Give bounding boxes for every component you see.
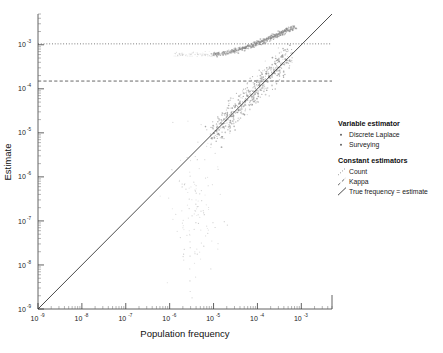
data-point bbox=[260, 71, 261, 72]
data-point bbox=[276, 71, 277, 72]
legend-item-label: Kappa bbox=[349, 178, 369, 186]
data-point bbox=[239, 102, 241, 104]
legend-item[interactable]: True frequency = estimate bbox=[338, 188, 428, 196]
data-point bbox=[269, 66, 271, 68]
data-point bbox=[189, 255, 190, 256]
data-point bbox=[288, 30, 290, 32]
data-point bbox=[196, 185, 197, 186]
data-point bbox=[177, 231, 178, 232]
data-point bbox=[252, 91, 253, 92]
data-point bbox=[275, 67, 277, 69]
data-point bbox=[256, 92, 257, 93]
data-point bbox=[249, 102, 250, 103]
data-point bbox=[183, 259, 184, 260]
data-point bbox=[288, 67, 289, 68]
data-point bbox=[228, 100, 230, 102]
data-point bbox=[200, 211, 201, 212]
data-point bbox=[210, 127, 211, 128]
data-point bbox=[207, 54, 208, 55]
data-point bbox=[217, 121, 219, 123]
data-point bbox=[201, 124, 202, 125]
data-point bbox=[266, 90, 267, 91]
data-point bbox=[224, 221, 225, 222]
data-point bbox=[229, 120, 231, 122]
svg-text:-6: -6 bbox=[27, 171, 32, 176]
data-point bbox=[217, 132, 218, 133]
data-point bbox=[226, 114, 228, 116]
data-point bbox=[229, 122, 231, 124]
data-point bbox=[285, 31, 286, 32]
svg-text:-6: -6 bbox=[172, 313, 177, 318]
data-point bbox=[287, 43, 288, 44]
data-point bbox=[267, 69, 269, 71]
data-point bbox=[224, 131, 226, 133]
data-point bbox=[189, 235, 190, 236]
data-point bbox=[253, 98, 255, 100]
data-point bbox=[204, 194, 205, 195]
data-point bbox=[271, 33, 273, 35]
data-point bbox=[275, 81, 277, 83]
data-point bbox=[207, 55, 208, 56]
data-point bbox=[194, 189, 195, 190]
legend-item-label: Surveying bbox=[349, 141, 379, 149]
data-point bbox=[280, 32, 282, 34]
data-point bbox=[236, 111, 238, 113]
data-point bbox=[254, 100, 255, 101]
data-point bbox=[233, 117, 235, 119]
data-point bbox=[215, 227, 216, 228]
data-point bbox=[205, 178, 206, 179]
svg-text:10: 10 bbox=[18, 129, 26, 136]
data-point bbox=[236, 93, 237, 94]
data-point bbox=[261, 90, 262, 91]
data-point bbox=[275, 55, 276, 56]
data-point bbox=[287, 60, 289, 62]
svg-text:-8: -8 bbox=[84, 313, 89, 318]
data-point bbox=[278, 61, 280, 63]
data-point bbox=[201, 242, 202, 243]
data-point bbox=[245, 46, 247, 48]
data-point bbox=[232, 116, 233, 117]
data-point bbox=[243, 92, 244, 93]
data-point bbox=[228, 124, 229, 125]
data-point bbox=[269, 95, 270, 96]
data-point bbox=[217, 243, 218, 244]
data-point bbox=[224, 51, 225, 52]
data-point bbox=[244, 114, 245, 115]
svg-text:10: 10 bbox=[118, 315, 126, 322]
data-point bbox=[226, 109, 227, 110]
data-point bbox=[210, 147, 211, 148]
data-point bbox=[212, 121, 213, 122]
data-point bbox=[263, 90, 265, 92]
legend-heading: Variable estimator bbox=[338, 119, 400, 128]
data-point bbox=[195, 277, 196, 278]
legend-item[interactable]: Discrete Laplace bbox=[340, 131, 400, 139]
data-point bbox=[229, 132, 230, 133]
data-point bbox=[287, 48, 289, 50]
data-point bbox=[196, 215, 197, 216]
data-point bbox=[279, 73, 280, 74]
data-point bbox=[261, 88, 263, 90]
data-point bbox=[231, 49, 233, 51]
data-point bbox=[194, 229, 195, 230]
data-point bbox=[224, 53, 225, 54]
data-point bbox=[211, 54, 212, 55]
data-point bbox=[238, 103, 239, 104]
data-point bbox=[202, 52, 203, 53]
data-point bbox=[180, 237, 181, 238]
data-point bbox=[248, 95, 250, 97]
data-point bbox=[187, 205, 188, 206]
data-point bbox=[216, 136, 217, 137]
data-point bbox=[206, 226, 207, 227]
data-point bbox=[256, 98, 258, 100]
data-point bbox=[260, 97, 262, 99]
data-point bbox=[252, 76, 253, 77]
data-point bbox=[270, 69, 271, 70]
data-point bbox=[189, 55, 190, 56]
svg-text:10: 10 bbox=[18, 218, 26, 225]
data-point bbox=[225, 126, 226, 127]
data-point bbox=[230, 107, 231, 108]
data-point bbox=[214, 137, 216, 139]
data-point bbox=[289, 44, 291, 46]
data-point bbox=[261, 73, 263, 75]
data-point bbox=[282, 32, 283, 33]
